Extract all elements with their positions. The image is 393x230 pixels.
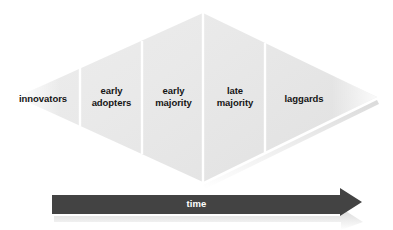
segment-label-late-majority: late majority — [205, 85, 265, 108]
segment-label-innovators: innovators — [6, 93, 80, 105]
segment-label-early-majority: early majority — [143, 85, 204, 108]
segment-label-laggards: laggards — [266, 93, 342, 105]
time-axis-label: time — [0, 198, 393, 210]
segment-label-early-adopters: early adopters — [81, 85, 142, 108]
adoption-lifecycle-diagram: innovators early adopters early majority… — [0, 0, 393, 230]
